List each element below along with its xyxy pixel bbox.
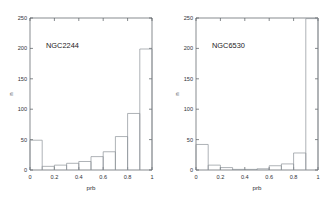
x-tick-label: 0.2 (217, 174, 225, 180)
histogram-bar (208, 165, 220, 170)
x-tick-label: 0.4 (75, 174, 83, 180)
histogram-bar (294, 153, 306, 170)
histogram-bar (306, 19, 318, 170)
histogram-bar (220, 168, 232, 170)
y-axis-label: n (173, 92, 180, 96)
histogram-bar (79, 161, 91, 170)
x-tick-label: 0.2 (51, 174, 59, 180)
x-tick-label: 0.8 (124, 174, 132, 180)
histogram-bar (30, 140, 42, 170)
panel-ngc2244: 00.20.40.60.81050100150200250prbnNGC2244 (0, 0, 166, 207)
histogram-bar (115, 137, 127, 170)
x-tick-label: 0 (194, 174, 197, 180)
y-tick-label: 0 (24, 167, 27, 173)
y-tick-label: 150 (18, 76, 27, 82)
histogram-bar (67, 163, 79, 170)
y-tick-label: 250 (184, 15, 193, 21)
y-tick-label: 0 (190, 167, 193, 173)
histogram-figure: 00.20.40.60.81050100150200250prbnNGC2244… (0, 0, 332, 207)
x-tick-label: 0 (28, 174, 31, 180)
y-tick-label: 100 (18, 106, 27, 112)
y-axis-label: n (7, 92, 14, 96)
x-axis-label: prb (87, 184, 97, 191)
y-tick-label: 150 (184, 76, 193, 82)
chart-canvas-ngc6530: 00.20.40.60.81050100150200250prbnNGC6530 (166, 0, 332, 207)
y-tick-label: 200 (184, 45, 193, 51)
histogram-bar (103, 152, 115, 170)
y-tick-label: 200 (18, 45, 27, 51)
histogram-bar (42, 166, 54, 170)
panel-title-label: NGC6530 (212, 41, 245, 50)
x-tick-label: 0.6 (265, 174, 273, 180)
histogram-bar (128, 113, 140, 170)
x-tick-label: 1 (316, 174, 319, 180)
y-tick-label: 100 (184, 106, 193, 112)
x-tick-label: 1 (150, 174, 153, 180)
x-tick-label: 0.4 (241, 174, 249, 180)
x-axis-label: prb (253, 184, 263, 191)
chart-canvas-ngc2244: 00.20.40.60.81050100150200250prbnNGC2244 (0, 0, 166, 207)
x-tick-label: 0.6 (99, 174, 107, 180)
histogram-bar (281, 164, 293, 170)
histogram-bar (54, 165, 66, 170)
y-tick-label: 50 (21, 137, 27, 143)
panel-ngc6530: 00.20.40.60.81050100150200250prbnNGC6530 (166, 0, 332, 207)
histogram-bar (196, 144, 208, 170)
histogram-bar (269, 166, 281, 170)
y-tick-label: 50 (187, 137, 193, 143)
panel-title-label: NGC2244 (46, 41, 79, 50)
x-tick-label: 0.8 (290, 174, 298, 180)
histogram-bar (91, 157, 103, 170)
y-tick-label: 250 (18, 15, 27, 21)
